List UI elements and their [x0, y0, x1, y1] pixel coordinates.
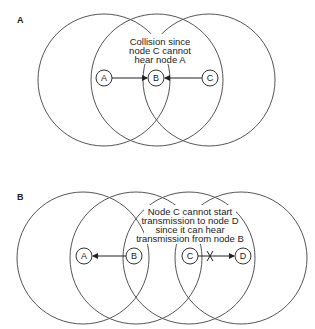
node-a-label: A [101, 73, 107, 83]
panel-b-label: B [17, 192, 24, 202]
hidden-terminal-diagram: A Collision since node C cannot hear nod… [0, 0, 315, 329]
node-a-label: A [81, 251, 87, 261]
note-line-4: transmission from node B [136, 233, 244, 244]
node-b-label: B [131, 251, 137, 261]
note-line-3: hear node A [134, 54, 186, 65]
node-d-label: D [240, 251, 247, 261]
panel-a-label: A [17, 15, 24, 25]
panel-b: B Node C cannot start transmission to no… [17, 192, 307, 324]
node-c-label: C [187, 251, 194, 261]
node-c-label: C [207, 73, 214, 83]
node-b-label: B [153, 73, 159, 83]
panel-a: A Collision since node C cannot hear nod… [17, 14, 275, 146]
